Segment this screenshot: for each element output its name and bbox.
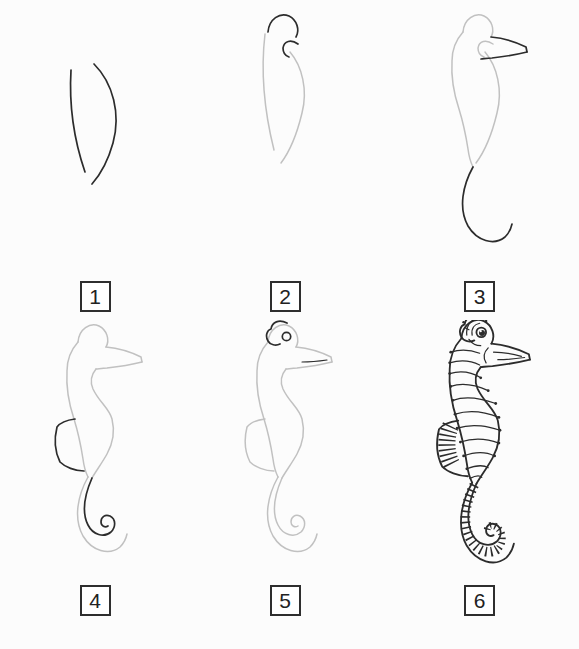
front-guide-line [71,70,85,172]
snout-lower-line [480,360,529,367]
snout-upper-line [106,347,142,362]
front-guide-line [263,34,274,150]
back-outline [451,32,472,167]
step-5-number: 5 [279,590,291,611]
step-3-number-box: 3 [464,281,495,312]
tail-rings [465,485,499,552]
step-1-number-box: 1 [80,281,111,312]
step-panel-1: 1 [0,0,190,320]
belly-guide-arc [92,64,116,184]
head-crown-line [78,325,108,347]
step-panel-4: 4 [0,320,190,649]
step-2-number: 2 [279,286,291,307]
head-crown-line [463,15,493,37]
belly-guide-arc [476,52,499,163]
seahorse-step-1-drawing [0,0,190,265]
step-panel-3: 3 [380,0,579,320]
step-panel-5: 5 [190,320,380,649]
fin-rays [446,426,451,465]
step-6-number-box: 6 [464,585,495,616]
belly-outline [281,369,303,478]
seahorse-step-5-drawing [190,320,380,578]
step-4-number: 4 [89,590,101,611]
eye-circle [282,332,290,340]
seahorse-step-4-drawing [0,320,190,578]
belly-outline [91,369,113,478]
mouth-line [497,358,524,360]
tail-spiral-line [468,484,500,545]
snout-inner-line [493,352,521,356]
dorsal-fin-outline [55,419,84,471]
belly-guide-arc [281,52,304,163]
chin-hook-line [283,41,298,57]
step-6-number: 6 [474,590,486,611]
seahorse-step-3-drawing [385,0,575,265]
step-panel-6: 6 [380,320,579,649]
tail-curve [462,167,511,241]
back-outline [257,342,278,477]
step-3-number: 3 [474,286,486,307]
back-outline [67,342,88,477]
drawing-tutorial-grid: 1 2 3 [0,0,579,649]
eye [476,328,486,338]
mouth-line [302,360,327,362]
dorsal-fin-outline [245,419,274,471]
snout-upper-line [491,37,527,52]
step-5-number-box: 5 [270,585,301,616]
chin-hook-line [478,41,493,57]
step-4-number-box: 4 [80,585,111,616]
tail-spiral-line [84,478,114,535]
tail-spiral-line [274,478,304,535]
step-1-number: 1 [89,286,101,307]
snout-lower-line [96,362,142,369]
snout-lower-line [286,362,332,369]
head-crown-line [268,15,298,37]
gill-line [484,348,488,363]
seahorse-step-6-drawing [385,320,575,578]
back-outline [449,338,472,482]
step-2-number-box: 2 [270,281,301,312]
seahorse-step-2-drawing [190,0,380,265]
step-panel-2: 2 [190,0,380,320]
eye-highlight [479,330,481,332]
